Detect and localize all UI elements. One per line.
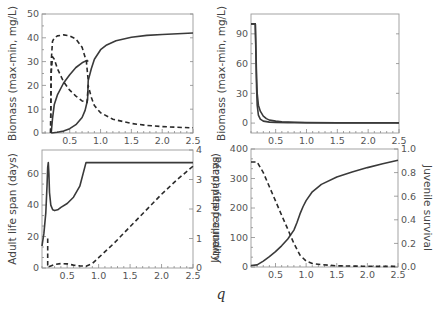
x-tick-label: 1.0 [91, 270, 106, 281]
y-right-tick-label: 0.0 [401, 261, 416, 272]
y-tick-label: 90 [236, 28, 248, 39]
series-dashed-max [51, 35, 89, 133]
y-tick-label: 10 [27, 104, 39, 115]
y-tick-label: 0 [242, 117, 248, 128]
x-tick-label: 0.5 [268, 135, 283, 146]
y-axis-right-label: Juvenile survival [422, 164, 434, 251]
y-tick-label: 30 [236, 88, 248, 99]
y-tick-label: 60 [27, 168, 39, 179]
y-right-tick-label: 0 [196, 262, 202, 273]
y-tick-label: 30 [27, 56, 39, 67]
y-tick-label: 100 [230, 232, 248, 243]
x-tick-label: 1.5 [124, 135, 139, 146]
series-juvenile-survival [251, 162, 398, 266]
y-tick-label: 40 [27, 32, 39, 43]
panel-adult-lifespan-fecundity: 0.51.01.52.02.5020406001234Per capita fe… [6, 144, 223, 281]
y-axis-label: Adult life span (days) [6, 153, 18, 265]
series-juvenile-delay [251, 160, 398, 265]
y-tick-label: 60 [236, 58, 248, 69]
y-right-tick-label: 1 [196, 233, 202, 244]
x-tick-label: 1.0 [93, 135, 108, 146]
y-axis-label: Juvenile delay (days) [209, 153, 221, 264]
panel-biomass-left: 0.51.01.52.02.501020304050Biomass (max-m… [6, 6, 201, 146]
plot-frame [42, 14, 193, 133]
y-right-tick-label: 0.8 [401, 167, 416, 178]
x-tick-label: 1.5 [330, 135, 345, 146]
y-tick-label: 200 [230, 202, 248, 213]
x-tick-label: 1.0 [299, 135, 314, 146]
y-right-tick-label: 4 [196, 144, 202, 155]
series-adult-life-span [42, 163, 193, 246]
y-tick-label: 20 [27, 231, 39, 242]
y-tick-label: 40 [27, 199, 39, 210]
series-solid-a [251, 24, 399, 123]
x-tick-label: 2.0 [155, 135, 170, 146]
panel-biomass-right: 0.51.01.52.02.50306090Biomass (max-min, … [215, 6, 407, 146]
plot-frame [251, 149, 398, 267]
plot-frame [42, 150, 193, 268]
x-tick-label: 1.5 [123, 270, 138, 281]
y-tick-label: 20 [27, 80, 39, 91]
series-per-capita-fecundity [48, 166, 193, 267]
x-tick-label: 1.5 [329, 269, 344, 280]
x-tick-label: 0.5 [62, 135, 77, 146]
series-solid-min [51, 33, 193, 133]
series-solid-b [251, 24, 399, 123]
y-right-tick-label: 3 [196, 174, 202, 185]
y-tick-label: 400 [230, 143, 248, 154]
y-tick-label: 0 [242, 261, 248, 272]
y-right-tick-label: 0.2 [401, 238, 416, 249]
y-axis-label: Biomass (max-min, mg/L) [6, 6, 18, 141]
y-axis-label: Biomass (max-min, mg/L) [215, 6, 227, 141]
y-right-tick-label: 0.4 [401, 214, 416, 225]
panel-juvenile-delay-survival: 0.51.01.52.02.501002003004000.00.20.40.6… [209, 143, 434, 280]
x-axis-label-q: q [217, 286, 226, 302]
plot-frame [251, 14, 399, 133]
x-tick-label: 2.0 [360, 269, 375, 280]
x-tick-label: 1.0 [299, 269, 314, 280]
series-solid-max [51, 60, 88, 133]
series-dashed-min [51, 57, 193, 133]
y-right-tick-label: 2 [196, 203, 202, 214]
x-tick-label: 0.5 [60, 270, 75, 281]
y-tick-label: 0 [33, 127, 39, 138]
y-right-tick-label: 0.6 [401, 191, 416, 202]
x-tick-label: 0.5 [268, 269, 283, 280]
y-tick-label: 50 [27, 8, 39, 19]
y-tick-label: 0 [33, 262, 39, 273]
y-right-tick-label: 1.0 [401, 143, 416, 154]
figure: 0.51.01.52.02.501020304050Biomass (max-m… [0, 0, 444, 309]
y-tick-label: 300 [230, 173, 248, 184]
x-tick-label: 2.0 [361, 135, 376, 146]
x-tick-label: 2.0 [154, 270, 169, 281]
